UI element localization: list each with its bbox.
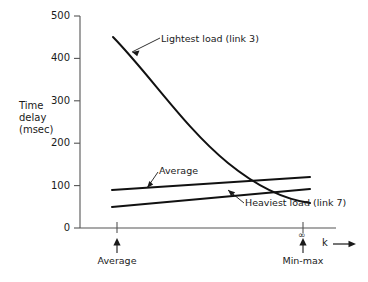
y-tick-label-0: 0: [44, 222, 70, 234]
y-axis-title-line-1: Time: [19, 100, 43, 112]
y-tick-label-200: 200: [44, 137, 70, 149]
y-tick-label-400: 400: [44, 52, 70, 64]
figure-container: 500 400 300 200 100 0 Time delay (msec) …: [0, 0, 368, 282]
y-tick-label-300: 300: [44, 95, 70, 107]
page-caption-strip: [0, 268, 368, 282]
y-axis-ticks: [74, 16, 80, 228]
series-label-average: Average: [159, 165, 198, 176]
x-axis-direction-arrow: [333, 241, 356, 247]
x-tick-caption-minmax: Min-max: [278, 255, 328, 266]
y-axis-title-line-2: delay: [19, 112, 46, 124]
x-tick-caption-average: Average: [92, 255, 142, 266]
series-line-average: [112, 177, 310, 190]
callout-leader-lightest-load: [132, 38, 160, 56]
y-axis-title-line-3: (msec): [19, 124, 53, 136]
infinity-symbol: ∞: [298, 230, 306, 241]
x-tick-arrow-average: [113, 238, 120, 253]
x-axis-label-k: k: [322, 237, 328, 249]
y-tick-label-500: 500: [44, 10, 70, 22]
callout-leader-average: [147, 172, 158, 188]
series-label-heaviest-load: Heaviest load (link 7): [245, 197, 346, 208]
series-label-lightest-load: Lightest load (link 3): [161, 33, 259, 44]
y-tick-label-100: 100: [44, 180, 70, 192]
